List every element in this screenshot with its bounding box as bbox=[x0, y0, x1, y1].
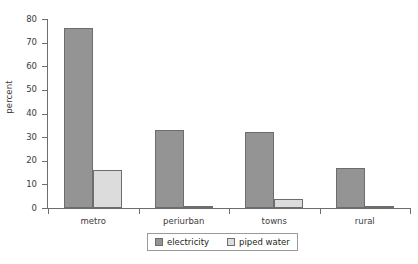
y-axis-tick bbox=[42, 66, 47, 67]
x-axis-category-label-towns: towns bbox=[229, 216, 320, 226]
bars-layer bbox=[48, 19, 410, 208]
y-axis-tick-label: 50 bbox=[13, 85, 37, 94]
y-axis-tick bbox=[42, 184, 47, 185]
x-axis-tick bbox=[48, 209, 49, 214]
bar-rural-piped-water bbox=[365, 206, 394, 208]
y-axis-tick-label: 0 bbox=[13, 204, 37, 213]
y-axis-tick bbox=[42, 161, 47, 162]
y-axis-tick bbox=[42, 137, 47, 138]
bar-periurban-piped-water bbox=[184, 206, 213, 208]
y-axis-tick bbox=[42, 19, 47, 20]
y-axis-tick-label: 10 bbox=[13, 180, 37, 189]
y-axis-title: percent bbox=[4, 65, 14, 129]
y-axis-tick-label: 20 bbox=[13, 156, 37, 165]
x-axis-tick bbox=[229, 209, 230, 214]
y-axis-tick bbox=[42, 90, 47, 91]
y-axis-tick-label: 30 bbox=[13, 133, 37, 142]
bar-metro-piped-water bbox=[93, 170, 122, 208]
y-axis-tick-label: 70 bbox=[13, 38, 37, 47]
y-axis-tick-label: 40 bbox=[13, 109, 37, 118]
bar-towns-electricity bbox=[245, 132, 274, 208]
y-axis-tick-label: 80 bbox=[13, 15, 37, 24]
x-axis-category-label-metro: metro bbox=[48, 216, 139, 226]
y-axis-tick bbox=[42, 43, 47, 44]
x-axis-tick bbox=[139, 209, 140, 214]
bar-towns-piped-water bbox=[274, 199, 303, 208]
bar-rural-electricity bbox=[336, 168, 365, 208]
legend-swatch-icon bbox=[227, 238, 235, 246]
legend-entry-piped-water[interactable]: piped water bbox=[227, 238, 290, 247]
x-axis-tick bbox=[410, 209, 411, 214]
bar-chart: percent 80706050403020100 metroperiurban… bbox=[0, 0, 418, 264]
legend-entry-electricity[interactable]: electricity bbox=[155, 238, 209, 247]
chart-legend: electricitypiped water bbox=[147, 233, 298, 251]
y-axis-tick-label: 60 bbox=[13, 62, 37, 71]
bar-metro-electricity bbox=[64, 28, 93, 208]
legend-swatch-icon bbox=[155, 238, 163, 246]
y-axis-tick bbox=[42, 208, 47, 209]
legend-label: electricity bbox=[167, 238, 209, 247]
x-axis-tick bbox=[320, 209, 321, 214]
y-axis-tick bbox=[42, 114, 47, 115]
bar-periurban-electricity bbox=[155, 130, 184, 208]
legend-label: piped water bbox=[239, 238, 290, 247]
x-axis-category-label-periurban: periurban bbox=[139, 216, 230, 226]
x-axis-category-label-rural: rural bbox=[320, 216, 411, 226]
